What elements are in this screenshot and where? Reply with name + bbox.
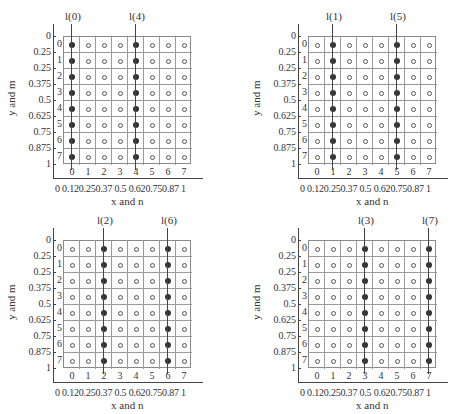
empty-sample-dot [86, 343, 91, 348]
empty-sample-dot [118, 311, 123, 316]
filled-sample-dot [133, 138, 139, 144]
row-index-label: 0 [57, 243, 62, 253]
empty-sample-dot [182, 59, 187, 64]
empty-sample-dot [118, 343, 123, 348]
column-index-label: 3 [357, 167, 373, 177]
row-index-label: 5 [57, 323, 62, 333]
empty-sample-dot [427, 123, 432, 128]
y-tick-label: 0 [291, 235, 296, 245]
filled-sample-dot [165, 358, 171, 364]
empty-sample-dot [411, 327, 416, 332]
y-tick [298, 336, 301, 337]
empty-sample-dot [379, 327, 384, 332]
y-tick [53, 288, 56, 289]
empty-sample-dot [363, 107, 368, 112]
empty-sample-dot [427, 59, 432, 64]
column-index-label: 7 [176, 371, 192, 381]
empty-sample-dot [347, 247, 352, 252]
y-axis-line [53, 24, 54, 178]
empty-sample-dot [166, 59, 171, 64]
empty-sample-dot [70, 359, 75, 364]
x-axis-label: x and n [356, 400, 388, 410]
filled-sample-dot [426, 342, 432, 348]
y-tick-label: 0.625 [274, 315, 297, 325]
x-axis-label: x and n [111, 196, 143, 206]
filled-sample-dot [394, 154, 400, 160]
filled-sample-dot [362, 278, 368, 284]
row-index-label: 3 [302, 87, 307, 97]
empty-sample-dot [347, 43, 352, 48]
empty-sample-dot [379, 91, 384, 96]
y-tick [53, 132, 56, 133]
y-tick [298, 368, 301, 369]
empty-sample-dot [315, 75, 320, 80]
empty-sample-dot [411, 107, 416, 112]
filled-sample-dot [69, 138, 75, 144]
empty-sample-dot [118, 247, 123, 252]
filled-sample-dot [394, 74, 400, 80]
y-tick [298, 100, 301, 101]
empty-sample-dot [150, 311, 155, 316]
y-tick [298, 68, 301, 69]
empty-sample-dot [182, 155, 187, 160]
line-label: l(7) [422, 215, 438, 225]
y-axis-line [53, 228, 54, 382]
y-tick [298, 240, 301, 241]
column-index-label: 7 [421, 371, 437, 381]
column-index-label: 5 [144, 167, 160, 177]
column-index-label: 5 [144, 371, 160, 381]
column-index-label: 3 [357, 371, 373, 381]
empty-sample-dot [379, 155, 384, 160]
empty-sample-dot [102, 91, 107, 96]
column-index-label: 0 [309, 167, 325, 177]
filled-sample-dot [101, 294, 107, 300]
empty-sample-dot [150, 279, 155, 284]
row-index-label: 6 [57, 339, 62, 349]
row-index-label: 3 [57, 291, 62, 301]
filled-sample-dot [69, 90, 75, 96]
empty-sample-dot [182, 263, 187, 268]
x-axis-line [53, 178, 203, 179]
y-tick [298, 116, 301, 117]
y-tick-label: 0.375 [274, 79, 297, 89]
empty-sample-dot [379, 247, 384, 252]
filled-sample-dot [426, 310, 432, 316]
empty-sample-dot [379, 59, 384, 64]
y-tick-label: 0 [46, 235, 51, 245]
y-tick [53, 84, 56, 85]
column-index-label: 6 [405, 167, 421, 177]
empty-sample-dot [411, 279, 416, 284]
empty-sample-dot [182, 123, 187, 128]
filled-sample-dot [330, 42, 336, 48]
empty-sample-dot [379, 311, 384, 316]
filled-sample-dot [362, 310, 368, 316]
empty-sample-dot [166, 155, 171, 160]
empty-sample-dot [379, 43, 384, 48]
empty-sample-dot [363, 75, 368, 80]
empty-sample-dot [134, 263, 139, 268]
empty-sample-dot [315, 359, 320, 364]
empty-sample-dot [411, 263, 416, 268]
empty-sample-dot [347, 139, 352, 144]
column-index-label: 3 [112, 371, 128, 381]
row-index-label: 0 [302, 243, 307, 253]
row-index-label: 1 [302, 55, 307, 65]
empty-sample-dot [70, 327, 75, 332]
lattice-grid [308, 36, 436, 164]
y-tick-label: 0.25 [34, 251, 52, 261]
y-tick [53, 240, 56, 241]
empty-sample-dot [347, 295, 352, 300]
y-tick-label: 1 [291, 363, 296, 373]
lattice-panel: 00.250.250.3750.50.6250.750.87510 0.120.… [0, 207, 231, 414]
empty-sample-dot [86, 263, 91, 268]
row-index-label: 5 [302, 119, 307, 129]
row-index-label: 2 [57, 71, 62, 81]
row-index-label: 1 [57, 55, 62, 65]
x-axis-line [298, 178, 448, 179]
y-tick [298, 148, 301, 149]
empty-sample-dot [315, 123, 320, 128]
empty-sample-dot [70, 311, 75, 316]
y-tick [298, 132, 301, 133]
empty-sample-dot [331, 279, 336, 284]
lattice-panel: 00.250.250.3750.50.6250.750.87510 0.120.… [0, 0, 231, 207]
